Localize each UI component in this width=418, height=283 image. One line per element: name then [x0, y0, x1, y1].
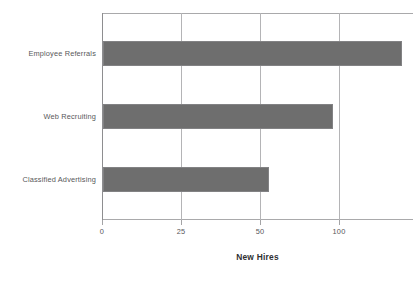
x-tick-label-100: 100 [333, 228, 346, 235]
x-axis-title: New Hires [102, 253, 413, 261]
plot-top-border [102, 13, 413, 14]
category-label-employee-referrals: Employee Referrals [28, 50, 96, 57]
bar-chart: Employee Referrals Web Recruiting Classi… [0, 0, 418, 283]
category-label-web-recruiting: Web Recruiting [44, 113, 97, 120]
plot-area [102, 13, 413, 220]
tick-mark-50 [260, 220, 261, 225]
x-tick-label-50: 50 [256, 228, 265, 235]
tick-mark-0 [102, 220, 103, 225]
bar-web-recruiting [103, 104, 333, 129]
x-tick-label-0: 0 [100, 228, 104, 235]
bar-employee-referrals [103, 41, 402, 66]
x-tick-label-25: 25 [177, 228, 186, 235]
category-label-classified-advertising: Classified Advertising [22, 176, 96, 183]
bar-classified-advertising [103, 167, 269, 192]
tick-mark-100 [339, 220, 340, 225]
tick-mark-25 [181, 220, 182, 225]
x-axis-line [102, 219, 413, 220]
